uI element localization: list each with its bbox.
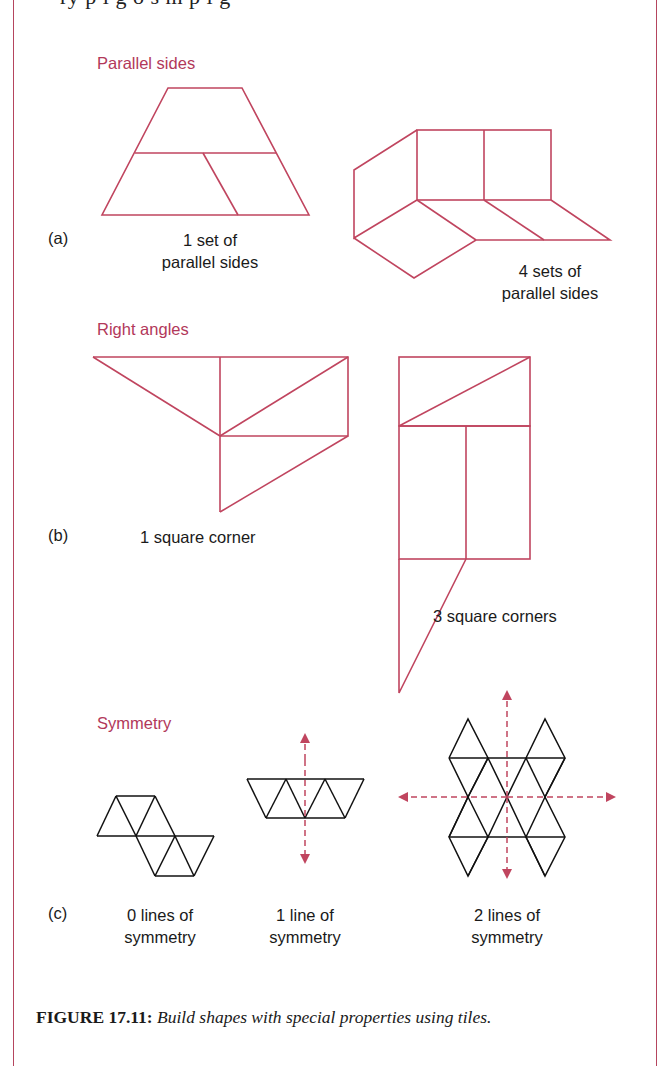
caption-2-lines-symmetry: 2 lines of symmetry <box>447 904 567 948</box>
caption-4-sets-parallel: 4 sets of parallel sides <box>480 260 620 304</box>
tile-shape-no-symmetry <box>97 796 214 876</box>
caption-1-line-symmetry: 1 line of symmetry <box>245 904 365 948</box>
heading-symmetry: Symmetry <box>97 714 171 733</box>
heading-right-angles: Right angles <box>97 320 189 339</box>
section-label-c: (c) <box>48 904 67 923</box>
section-label-a: (a) <box>48 229 68 248</box>
right-angle-shape-1 <box>93 357 348 512</box>
parallelogram-composite-shape <box>354 130 610 278</box>
figure-caption: FIGURE 17.11: Build shapes with special … <box>36 1006 636 1029</box>
figure-number: FIGURE 17.11: <box>36 1007 153 1027</box>
caption-0-lines-symmetry: 0 lines of symmetry <box>100 904 220 948</box>
caption-3-square-corners: 3 square corners <box>433 605 557 627</box>
trapezoid-shape <box>102 88 309 215</box>
right-angle-shape-2 <box>399 357 530 693</box>
section-label-b: (b) <box>48 526 68 545</box>
caption-1-square-corner: 1 square corner <box>140 526 256 548</box>
heading-parallel-sides: Parallel sides <box>97 54 195 73</box>
caption-1-set-parallel: 1 set of parallel sides <box>140 229 280 273</box>
figure-caption-text: Build shapes with special properties usi… <box>157 1007 491 1027</box>
